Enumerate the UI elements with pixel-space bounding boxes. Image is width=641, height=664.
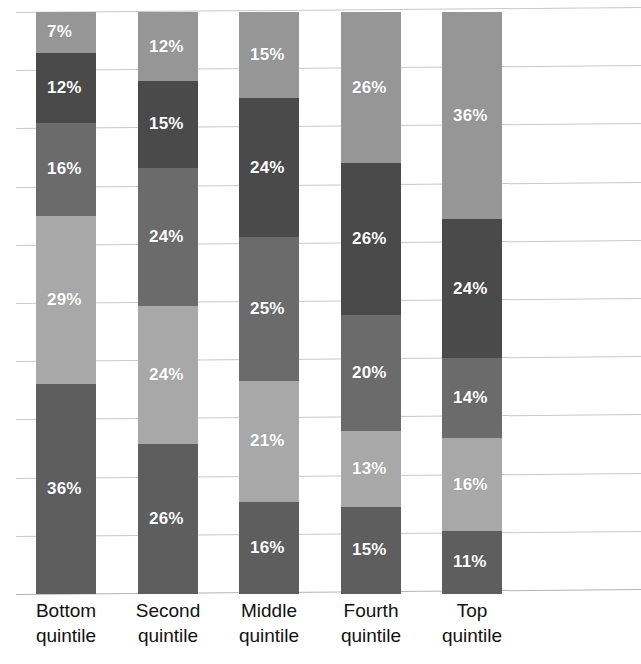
gridline-10 bbox=[16, 531, 641, 537]
bar-segment[interactable]: 21% bbox=[239, 381, 299, 502]
bar-segment[interactable]: 26% bbox=[341, 163, 401, 314]
gridline-80 bbox=[16, 123, 641, 129]
gridline-40 bbox=[16, 356, 641, 362]
segment-value-label: 36% bbox=[36, 479, 82, 499]
bar-segment[interactable]: 14% bbox=[442, 358, 502, 439]
bar-segment[interactable]: 16% bbox=[239, 502, 299, 594]
gridline-70 bbox=[16, 182, 641, 188]
bar-group-4[interactable]: 15%13%20%26%26% bbox=[341, 12, 401, 594]
bar-segment[interactable]: 24% bbox=[138, 306, 198, 444]
segment-value-label: 24% bbox=[138, 365, 184, 385]
segment-value-label: 36% bbox=[442, 106, 488, 126]
bar-segment[interactable]: 24% bbox=[442, 219, 502, 357]
segment-value-label: 11% bbox=[442, 552, 487, 572]
segment-value-label: 21% bbox=[239, 431, 285, 451]
gridline-60 bbox=[16, 240, 641, 246]
segment-value-label: 20% bbox=[341, 363, 387, 383]
bar-segment[interactable]: 16% bbox=[442, 438, 502, 530]
bar-segment[interactable]: 26% bbox=[341, 12, 401, 163]
segment-value-label: 7% bbox=[36, 22, 72, 42]
bar-segment[interactable]: 15% bbox=[239, 12, 299, 98]
bar-segment[interactable]: 11% bbox=[442, 531, 502, 594]
bar-segment[interactable]: 15% bbox=[341, 507, 401, 594]
segment-value-label: 26% bbox=[341, 78, 387, 98]
gridline-0 bbox=[16, 589, 641, 595]
segment-value-label: 24% bbox=[442, 279, 488, 299]
bar-group-3[interactable]: 16%21%25%24%15% bbox=[239, 12, 299, 594]
bar-group-5[interactable]: 11%16%14%24%36% bbox=[442, 12, 502, 594]
segment-value-label: 26% bbox=[341, 229, 387, 249]
stacked-bar-chart: 36%29%16%12%7%26%24%24%15%12%16%21%25%24… bbox=[0, 0, 641, 664]
bar-segment[interactable]: 7% bbox=[36, 12, 96, 53]
bar-segment[interactable]: 26% bbox=[138, 444, 198, 594]
segment-value-label: 14% bbox=[442, 388, 488, 408]
bar-segment[interactable]: 15% bbox=[138, 81, 198, 167]
gridline-30 bbox=[16, 414, 641, 420]
bar-segment[interactable]: 36% bbox=[442, 12, 502, 219]
bar-segment[interactable]: 24% bbox=[239, 98, 299, 236]
gridline-50 bbox=[16, 298, 641, 304]
category-label-line: quintile bbox=[402, 623, 542, 648]
segment-value-label: 12% bbox=[36, 78, 82, 98]
bar-segment[interactable]: 13% bbox=[341, 431, 401, 507]
segment-value-label: 15% bbox=[341, 540, 387, 560]
bar-segment[interactable]: 24% bbox=[138, 168, 198, 306]
bar-group-2[interactable]: 26%24%24%15%12% bbox=[138, 12, 198, 594]
bar-segment[interactable]: 12% bbox=[138, 12, 198, 81]
segment-value-label: 24% bbox=[239, 158, 285, 178]
segment-value-label: 15% bbox=[239, 45, 285, 65]
segment-value-label: 26% bbox=[138, 509, 184, 529]
category-label-5: Topquintile bbox=[402, 598, 542, 648]
bar-segment[interactable]: 36% bbox=[36, 384, 96, 594]
segment-value-label: 15% bbox=[138, 114, 184, 134]
category-label-line: Top bbox=[402, 598, 542, 623]
bar-segment[interactable]: 12% bbox=[36, 53, 96, 123]
gridline-90 bbox=[16, 65, 641, 71]
bar-segment[interactable]: 16% bbox=[36, 123, 96, 216]
gridline-100 bbox=[16, 7, 641, 13]
plot-area: 36%29%16%12%7%26%24%24%15%12%16%21%25%24… bbox=[0, 12, 641, 594]
bar-segment[interactable]: 29% bbox=[36, 216, 96, 385]
segment-value-label: 24% bbox=[138, 227, 184, 247]
segment-value-label: 16% bbox=[239, 538, 285, 558]
segment-value-label: 16% bbox=[36, 159, 82, 179]
gridline-20 bbox=[16, 473, 641, 479]
segment-value-label: 16% bbox=[442, 475, 488, 495]
segment-value-label: 29% bbox=[36, 290, 82, 310]
segment-value-label: 12% bbox=[138, 37, 184, 57]
segment-value-label: 13% bbox=[341, 459, 387, 479]
bar-segment[interactable]: 20% bbox=[341, 315, 401, 431]
segment-value-label: 25% bbox=[239, 299, 285, 319]
category-axis: BottomquintileSecondquintileMiddlequinti… bbox=[0, 598, 641, 664]
bar-segment[interactable]: 25% bbox=[239, 237, 299, 381]
bar-group-1[interactable]: 36%29%16%12%7% bbox=[36, 12, 96, 594]
